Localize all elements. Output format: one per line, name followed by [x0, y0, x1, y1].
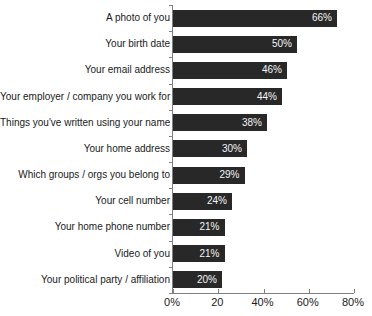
bar-track: 46% — [172, 62, 372, 79]
bar-value-label: 20% — [197, 275, 222, 285]
y-axis-tick — [169, 293, 172, 294]
bar-row: A photo of you 66% — [0, 5, 372, 31]
bar-track: 66% — [172, 10, 372, 27]
bar-track: 30% — [172, 140, 372, 157]
bar-row: Your home address 30% — [0, 136, 372, 162]
bar-value-label: 21% — [199, 222, 224, 232]
category-label: Things you've written using your name — [0, 118, 172, 128]
bar-track: 29% — [172, 167, 372, 184]
bar-track: 21% — [172, 219, 372, 236]
bar-row: Which groups / orgs you belong to 29% — [0, 162, 372, 188]
bar-value-label: 66% — [312, 13, 337, 23]
category-label: Your cell number — [0, 196, 172, 206]
bar: 66% — [172, 10, 337, 27]
x-tick-label: 40% — [251, 297, 273, 308]
bar-row: Your home phone number 21% — [0, 214, 372, 240]
category-label: A photo of you — [0, 13, 172, 23]
bar-value-label: 30% — [222, 144, 247, 154]
category-label: Your home phone number — [0, 222, 172, 232]
category-label: Which groups / orgs you belong to — [0, 170, 172, 180]
bar-track: 50% — [172, 36, 372, 53]
bar-value-label: 44% — [257, 92, 282, 102]
category-label: Your home address — [0, 144, 172, 154]
x-tick-label: 60% — [297, 297, 319, 308]
bar-row: Your cell number 24% — [0, 188, 372, 214]
bar: 46% — [172, 62, 287, 79]
bar: 29% — [172, 167, 245, 184]
bar: 30% — [172, 140, 247, 157]
category-label: Your birth date — [0, 39, 172, 49]
bar-value-label: 29% — [219, 170, 244, 180]
x-tick-label: 80% — [342, 297, 364, 308]
bar-row: Your birth date 50% — [0, 31, 372, 57]
bar-value-label: 46% — [262, 65, 287, 75]
category-label: Your political party / affiliation — [0, 275, 172, 285]
bar: 38% — [172, 114, 267, 131]
bar-track: 38% — [172, 114, 372, 131]
bar-track: 20% — [172, 271, 372, 288]
bar-value-label: 38% — [242, 118, 267, 128]
bar-row: Things you've written using your name 38… — [0, 110, 372, 136]
bar-track: 44% — [172, 88, 372, 105]
category-label: Video of you — [0, 249, 172, 259]
bar-track: 21% — [172, 245, 372, 262]
category-label: Your email address — [0, 65, 172, 75]
x-tick-label: 20 — [211, 297, 223, 308]
bar-row: Your employer / company you work for 44% — [0, 84, 372, 110]
bar-row: Video of you 21% — [0, 241, 372, 267]
category-label: Your employer / company you work for — [0, 92, 172, 102]
x-tick-label: 0% — [164, 297, 180, 308]
bar: 24% — [172, 193, 232, 210]
bar-track: 24% — [172, 193, 372, 210]
bar-rows: A photo of you 66% Your birth date 50% Y… — [0, 5, 372, 293]
bar: 44% — [172, 88, 282, 105]
bar-value-label: 21% — [199, 249, 224, 259]
bar: 21% — [172, 219, 225, 236]
bar: 50% — [172, 36, 297, 53]
x-axis-labels: 0% 20 40% 60% 80% — [0, 297, 372, 311]
bar: 20% — [172, 271, 222, 288]
bar-value-label: 24% — [207, 196, 232, 206]
bar-row: Your email address 46% — [0, 57, 372, 83]
horizontal-bar-chart: A photo of you 66% Your birth date 50% Y… — [0, 0, 372, 316]
bar-value-label: 50% — [272, 39, 297, 49]
bar-row: Your political party / affiliation 20% — [0, 267, 372, 293]
bar: 21% — [172, 245, 225, 262]
